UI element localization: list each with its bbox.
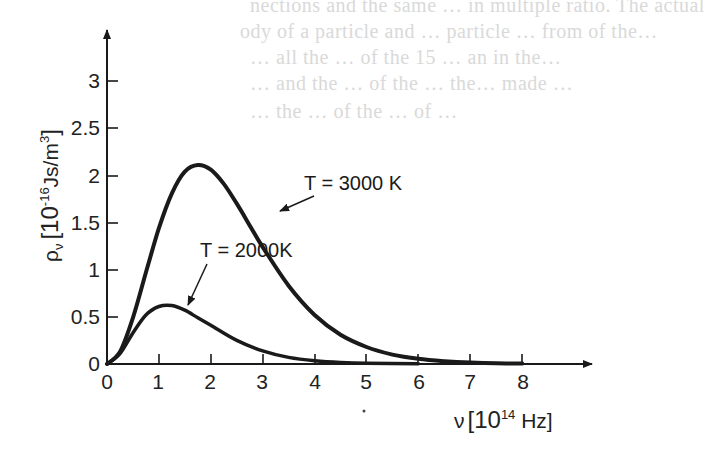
svg-text:2: 2	[88, 164, 100, 187]
svg-text:7: 7	[464, 370, 476, 393]
svg-text:1.5: 1.5	[71, 211, 100, 234]
annotation-t3000: T = 3000 K	[304, 172, 403, 194]
svg-text:0: 0	[88, 352, 100, 375]
svg-text:0: 0	[101, 370, 113, 393]
svg-text:5: 5	[360, 370, 372, 393]
annotation-arrow-t3000	[280, 196, 314, 211]
y-axis-title: ρν[10-16Js/m3]	[36, 129, 66, 262]
y-tick-labels: 0 0.5 1 1.5 2 2.5 3	[71, 69, 100, 375]
curve-t3000	[107, 165, 522, 364]
svg-text:2.5: 2.5	[71, 116, 100, 139]
svg-text:4: 4	[309, 370, 321, 393]
stray-dot	[363, 410, 366, 413]
svg-text:2: 2	[204, 370, 216, 393]
svg-text:ρν[10-16Js/m3]: ρν[10-16Js/m3]	[36, 129, 66, 262]
x-axis-title: ν[1014 Hz]	[454, 406, 553, 433]
svg-text:1: 1	[88, 258, 100, 281]
svg-text:0.5: 0.5	[71, 305, 100, 328]
svg-text:8: 8	[517, 370, 529, 393]
svg-text:1: 1	[152, 370, 164, 393]
annotation-arrow-t2000	[188, 264, 207, 305]
svg-text:6: 6	[413, 370, 425, 393]
svg-text:3: 3	[88, 69, 100, 92]
annotation-t2000: T = 2000K	[200, 239, 293, 261]
svg-text:3: 3	[256, 370, 268, 393]
y-ticks	[107, 81, 118, 317]
x-tick-labels: 0 1 2 3 4 5 6 7 8	[101, 370, 529, 393]
